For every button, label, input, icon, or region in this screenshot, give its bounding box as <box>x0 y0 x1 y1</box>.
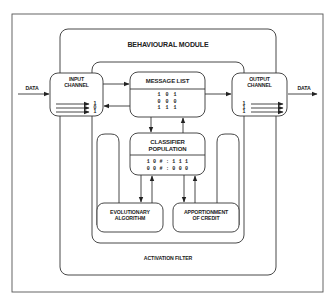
output-channel-title: OUTPUT CHANNEL <box>232 77 287 89</box>
apportionment-of-credit-label: APPORTIONMENT OF CREDIT <box>173 210 239 222</box>
behavioural-module-title: BEHAVIOURAL MODULE <box>110 41 226 49</box>
output-channel-bits: 1 1 1 <box>240 101 248 113</box>
activation-filter-label: ACTIVATION FILTER <box>120 256 216 262</box>
input-channel-bits: 1 0 1 <box>91 101 99 113</box>
output-data-label: DATA <box>291 86 317 92</box>
input-data-label: DATA <box>18 86 46 92</box>
message-list-items: 1 0 1 0 0 0 1 1 1 <box>130 92 205 112</box>
message-list-title: MESSAGE LIST <box>130 78 205 85</box>
classifier-rule: 0 0 # : 0 0 0 <box>130 166 205 173</box>
classifier-rules: 1 0 # : 1 1 1 0 0 # : 0 0 0 <box>130 159 205 172</box>
evolutionary-algorithm-label: EVOLUTIONARY ALGORITHM <box>97 210 163 222</box>
classifier-population-title: CLASSIFIER POPULATION <box>130 139 205 153</box>
input-channel-title: INPUT CHANNEL <box>50 77 103 89</box>
message-item: 1 1 1 <box>130 105 205 112</box>
